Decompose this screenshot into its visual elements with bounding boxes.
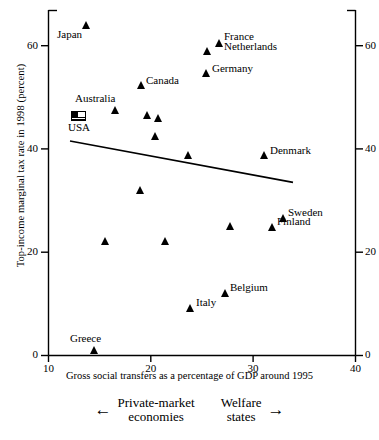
point-label-usa: USA (68, 122, 90, 133)
data-marker-netherlands (203, 47, 211, 55)
private-market-block: Private-market economies (117, 396, 194, 424)
point-label-finland: Finland (277, 216, 311, 227)
data-marker-france (215, 39, 223, 47)
data-marker-canada (137, 81, 145, 89)
data-marker-unlabeled-2 (154, 114, 162, 122)
ytick-label-left-0: 0 (12, 348, 38, 360)
chart-figure: 60 40 20 0 60 40 20 0 10 20 30 40 Top-in… (0, 0, 379, 440)
welfare-states-block: Welfare states (221, 396, 262, 424)
private-market-line2: economies (128, 409, 184, 424)
data-marker-australia (111, 106, 119, 114)
flag-stripe-1 (72, 117, 85, 118)
ytick-label-right-60: 60 (365, 39, 379, 51)
data-marker-unlabeled-5 (136, 186, 144, 194)
welfare-states-line2: states (227, 409, 256, 424)
data-marker-denmark (260, 151, 268, 159)
usa-flag-icon (71, 111, 86, 121)
y-axis-title: Top-income marginal tax rate in 1998 (pe… (15, 41, 26, 291)
x-axis-title: Gross social transfers as a percentage o… (0, 370, 379, 381)
flag-canton (72, 112, 78, 117)
point-label-australia: Australia (75, 93, 115, 104)
data-marker-unlabeled-3 (151, 132, 159, 140)
point-label-germany: Germany (212, 63, 253, 74)
trend-line (70, 141, 293, 182)
data-marker-unlabeled-7 (101, 237, 109, 245)
data-marker-unlabeled-4 (184, 151, 192, 159)
data-marker-finland (268, 223, 276, 231)
private-market-line1: Private-market (117, 395, 194, 410)
point-label-greece: Greece (70, 333, 101, 344)
left-arrow-icon: ← (94, 401, 111, 420)
data-marker-unlabeled-1 (143, 111, 151, 119)
ytick-label-right-0: 0 (365, 348, 379, 360)
ytick-label-right-20: 20 (365, 245, 379, 257)
point-label-canada: Canada (146, 75, 179, 86)
point-label-belgium: Belgium (230, 282, 268, 293)
data-marker-unlabeled-6 (226, 222, 234, 230)
point-label-denmark: Denmark (270, 145, 311, 156)
point-label-italy: Italy (196, 297, 216, 308)
spectrum-annotation: ← Private-market economies Welfare state… (0, 396, 379, 424)
point-label-japan: Japan (57, 29, 82, 40)
welfare-states-line1: Welfare (221, 395, 262, 410)
data-marker-germany (202, 69, 210, 77)
data-marker-italy-pt (186, 304, 194, 312)
ytick-label-right-40: 40 (365, 142, 379, 154)
data-marker-belgium-pt (221, 289, 229, 297)
data-marker-greece (90, 346, 98, 354)
point-label-netherlands: Netherlands (224, 41, 277, 52)
data-marker-unlabeled-8 (161, 237, 169, 245)
data-marker-japan (82, 21, 90, 29)
right-arrow-icon: → (268, 401, 285, 420)
